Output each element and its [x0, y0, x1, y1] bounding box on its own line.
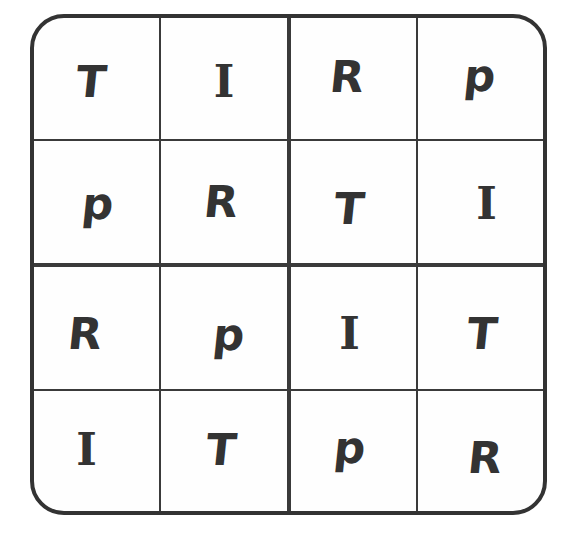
cell-r1-c3[interactable]: I — [418, 141, 547, 263]
cell-letter: R — [465, 436, 504, 480]
cell-letter: T — [332, 187, 367, 231]
cell-letter: I — [214, 60, 235, 104]
cell-r1-c0[interactable]: p — [34, 141, 159, 263]
cell-letter: T — [465, 312, 500, 356]
cell-letter: p — [211, 313, 247, 357]
cell-r1-c1[interactable]: R — [161, 141, 287, 263]
cell-r3-c2[interactable]: p — [291, 391, 416, 515]
cell-r3-c1[interactable]: T — [161, 391, 287, 515]
sudoku-board: T I R p p R T I R p I T I T p R — [30, 14, 547, 515]
cell-r2-c3[interactable]: T — [418, 267, 547, 389]
cell-r2-c0[interactable]: R — [34, 267, 159, 389]
cell-letter: p — [461, 54, 497, 98]
cell-r2-c1[interactable]: p — [161, 267, 287, 389]
cell-r0-c2[interactable]: R — [291, 18, 416, 139]
cell-letter: R — [327, 55, 366, 99]
cell-letter: I — [339, 312, 360, 356]
cell-r3-c0[interactable]: I — [34, 391, 159, 515]
cell-letter: R — [65, 312, 104, 356]
cell-letter: T — [204, 428, 239, 472]
cell-r0-c1[interactable]: I — [161, 18, 287, 139]
cell-r0-c3[interactable]: p — [418, 18, 547, 139]
cell-letter: T — [74, 60, 109, 104]
cell-r2-c2[interactable]: I — [291, 267, 416, 389]
cell-r0-c0[interactable]: T — [34, 18, 159, 139]
cell-letter: R — [202, 180, 241, 224]
cell-letter: p — [331, 426, 367, 470]
cell-letter: p — [79, 182, 115, 226]
cell-r3-c3[interactable]: R — [418, 391, 547, 515]
cell-letter: I — [76, 428, 97, 472]
cell-letter: I — [476, 182, 497, 226]
cell-r1-c2[interactable]: T — [291, 141, 416, 263]
